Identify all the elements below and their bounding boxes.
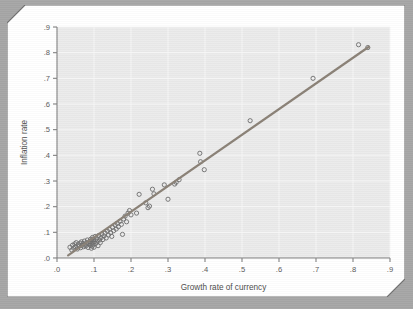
x-tick-label: .8 bbox=[350, 265, 356, 274]
y-tick-label: .6 bbox=[44, 100, 50, 109]
y-tick-label: .3 bbox=[44, 177, 50, 186]
x-tick-label: .5 bbox=[239, 265, 245, 274]
x-tick-label: .3 bbox=[165, 265, 171, 274]
y-tick-label: .8 bbox=[44, 48, 50, 57]
y-tick-label: .0 bbox=[44, 254, 50, 263]
x-tick-label: .0 bbox=[54, 265, 60, 274]
y-axis-title: Inflation rate bbox=[20, 120, 29, 166]
y-tick-label: .7 bbox=[44, 74, 50, 83]
scatter-chart: .0.1.2.3.4.5.6.7.8.9.0.1.2.3.4.5.6.7.8.9… bbox=[7, 5, 405, 297]
x-tick-label: .6 bbox=[276, 265, 282, 274]
plot-area-background bbox=[57, 27, 390, 258]
x-tick-label: .1 bbox=[91, 265, 97, 274]
y-tick-label: .9 bbox=[44, 23, 50, 32]
x-tick-label: .2 bbox=[128, 265, 134, 274]
y-tick-label: .1 bbox=[44, 228, 50, 237]
x-axis-title: Growth rate of currency bbox=[181, 283, 267, 292]
y-tick-label: .2 bbox=[44, 202, 50, 211]
y-tick-label: .4 bbox=[44, 151, 50, 160]
x-tick-label: .9 bbox=[387, 265, 393, 274]
x-tick-label: .4 bbox=[202, 265, 208, 274]
y-axis-ticks: .0.1.2.3.4.5.6.7.8.9 bbox=[44, 23, 57, 263]
x-axis-ticks: .0.1.2.3.4.5.6.7.8.9 bbox=[54, 258, 393, 274]
y-tick-label: .5 bbox=[44, 125, 50, 134]
x-tick-label: .7 bbox=[313, 265, 319, 274]
